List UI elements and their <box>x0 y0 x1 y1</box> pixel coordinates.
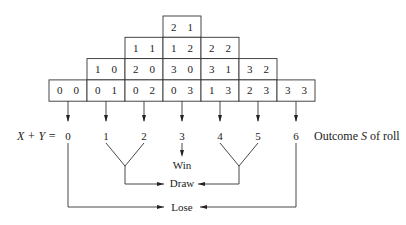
grid-cell-label: 2 0 <box>133 63 156 75</box>
grid-cell-label: 3 3 <box>285 84 308 96</box>
grid-cell-label: 0 3 <box>171 84 194 96</box>
sum-value: 5 <box>255 130 261 142</box>
sum-value: 2 <box>141 130 147 142</box>
lose-label: Lose <box>171 201 193 213</box>
grid-cell: 1 3 <box>201 80 239 101</box>
grid-cell: 0 3 <box>163 80 201 101</box>
win-label: Win <box>173 159 192 171</box>
grid-cell: 0 0 <box>49 80 87 101</box>
lose-flow-right <box>200 143 296 209</box>
sum-arrow <box>66 101 70 122</box>
win-flow <box>180 143 184 157</box>
grid-cell: 2 0 <box>125 59 163 80</box>
sum-arrow <box>256 101 260 122</box>
sum-arrow <box>218 101 222 122</box>
grid-cell: 0 1 <box>87 80 125 101</box>
sum-value: 0 <box>65 130 71 142</box>
grid-cell: 1 2 <box>163 37 201 58</box>
outcome-diagram: 2 11 11 22 21 02 03 03 13 20 00 10 20 31… <box>0 0 406 225</box>
grid-cell-label: 2 1 <box>171 21 193 33</box>
grid-cell-label: 0 0 <box>57 84 80 96</box>
sum-arrow <box>104 101 108 122</box>
draw-flow-left <box>106 143 164 186</box>
sum-arrow <box>180 101 184 122</box>
sum-value: 1 <box>103 130 109 142</box>
lose-flow-left <box>68 143 164 209</box>
grid-cell: 1 1 <box>125 37 163 58</box>
sum-value: 6 <box>293 130 299 142</box>
grid-cell: 3 2 <box>239 59 277 80</box>
outcome-label: Outcome S of roll <box>314 129 400 143</box>
grid-cell-label: 3 0 <box>171 63 194 75</box>
grid-cell-label: 2 2 <box>209 42 231 54</box>
sum-values: 0123456 <box>65 130 299 142</box>
grid-cell: 1 0 <box>87 59 125 80</box>
sum-value: 4 <box>217 130 223 142</box>
grid-cell-label: 1 1 <box>133 42 155 54</box>
outcome-label-text: Outcome S of roll <box>314 129 400 143</box>
sum-arrow <box>294 101 298 122</box>
grid-cell: 2 2 <box>201 37 239 58</box>
grid-cell-label: 1 2 <box>171 42 193 54</box>
grid-cell-label: 3 1 <box>209 63 231 75</box>
grid-cell-label: 1 0 <box>95 63 118 75</box>
grid-cell: 0 2 <box>125 80 163 101</box>
grid-cell-label: 1 3 <box>209 84 232 96</box>
grid-cell: 3 0 <box>163 59 201 80</box>
grid-cell-label: 0 2 <box>133 84 155 96</box>
grid-cell: 3 1 <box>201 59 239 80</box>
draw-label: Draw <box>170 177 194 189</box>
grid-cell: 2 3 <box>239 80 277 101</box>
grid-cell: 2 1 <box>163 16 201 37</box>
outcome-grid: 2 11 11 22 21 02 03 03 13 20 00 10 20 31… <box>49 16 315 101</box>
grid-cell-label: 3 2 <box>247 63 269 75</box>
sum-label: X + Y = <box>16 129 56 143</box>
sum-arrows <box>66 101 298 122</box>
draw-flow-right <box>198 143 258 186</box>
sum-value: 3 <box>179 130 185 142</box>
grid-cell: 3 3 <box>277 80 315 101</box>
sum-arrow <box>142 101 146 122</box>
outcome-flows <box>68 143 296 209</box>
grid-cell-label: 0 1 <box>95 84 117 96</box>
grid-cell-label: 2 3 <box>247 84 270 96</box>
